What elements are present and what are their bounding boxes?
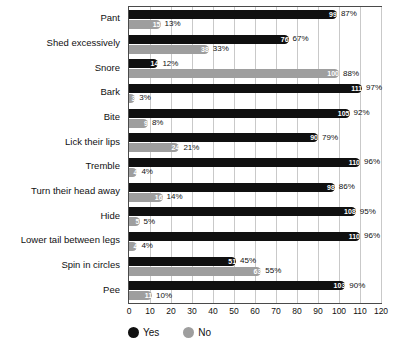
bar-percent-label: 21% bbox=[183, 143, 199, 153]
gridline-120 bbox=[381, 7, 382, 303]
bar-row-group: 9886%1614% bbox=[129, 183, 381, 202]
bar-value-label: 108 bbox=[334, 207, 359, 216]
bar-rect bbox=[129, 10, 337, 19]
bar-percent-label: 33% bbox=[213, 44, 229, 54]
bar-value-label: 3 bbox=[129, 94, 138, 103]
bar-percent-label: 4% bbox=[141, 167, 153, 177]
bar-percent-label: 86% bbox=[339, 182, 355, 192]
bar-value-label: 4 bbox=[129, 242, 140, 251]
bar-percent-label: 67% bbox=[293, 34, 309, 44]
bar-rect bbox=[129, 281, 345, 290]
bar-rect bbox=[129, 232, 360, 241]
bar-row-group: 9079%2421% bbox=[129, 133, 381, 152]
bar-value-label: 16 bbox=[141, 193, 166, 202]
bar-percent-label: 5% bbox=[144, 217, 156, 227]
bar-row-group: 7667%3833% bbox=[129, 35, 381, 54]
bar-rect bbox=[129, 207, 356, 216]
legend-label: No bbox=[198, 327, 211, 338]
bar-value-label: 38 bbox=[187, 45, 212, 54]
bar-value-label: 4 bbox=[129, 168, 140, 177]
category-label: Turn their head away bbox=[0, 186, 120, 196]
legend-swatch-yes-icon bbox=[128, 327, 139, 338]
bar-value-label: 63 bbox=[239, 267, 264, 276]
category-label: Bite bbox=[0, 112, 120, 122]
x-tick-label: 120 bbox=[369, 306, 393, 317]
plot-area: 9987%1513%7667%3833%1412%10088%11197%33%… bbox=[128, 6, 382, 304]
bar-percent-label: 79% bbox=[322, 133, 338, 143]
bar-row-group: 9987%1513% bbox=[129, 10, 381, 29]
bar-percent-label: 12% bbox=[162, 59, 178, 69]
bar-percent-label: 10% bbox=[156, 291, 172, 301]
bar-rect bbox=[129, 109, 350, 118]
category-label: Bark bbox=[0, 87, 120, 97]
bar-percent-label: 45% bbox=[240, 256, 256, 266]
category-label: Tremble bbox=[0, 161, 120, 171]
bar-value-label: 9 bbox=[129, 119, 151, 128]
bar-row-group: 1412%10088% bbox=[129, 59, 381, 78]
bar-row-group: 11096%44% bbox=[129, 232, 381, 251]
bar-percent-label: 95% bbox=[360, 207, 376, 217]
bar-value-label: 99 bbox=[315, 10, 340, 19]
category-label: Snore bbox=[0, 63, 120, 73]
category-label: Lick their lips bbox=[0, 137, 120, 147]
bar-rect bbox=[129, 133, 318, 142]
category-label: Spin in circles bbox=[0, 260, 120, 270]
category-label: Lower tail between legs bbox=[0, 235, 120, 245]
bar-percent-label: 4% bbox=[141, 241, 153, 251]
category-label: Pee bbox=[0, 285, 120, 295]
bar-percent-label: 90% bbox=[349, 281, 365, 291]
bar-rect bbox=[129, 183, 335, 192]
bar-rect bbox=[129, 69, 339, 78]
bar-percent-label: 87% bbox=[341, 9, 357, 19]
bar-value-label: 51 bbox=[214, 257, 239, 266]
bar-value-label: 110 bbox=[338, 158, 363, 167]
bar-percent-label: 8% bbox=[152, 118, 164, 128]
bar-percent-label: 97% bbox=[366, 83, 382, 93]
bar-percent-label: 96% bbox=[364, 231, 380, 241]
legend-label: Yes bbox=[143, 327, 159, 338]
x-axis-tick-labels: 0102030405060708090100110120 bbox=[128, 306, 382, 320]
bar-percent-label: 13% bbox=[165, 19, 181, 29]
bar-rect bbox=[129, 84, 362, 93]
bar-value-label: 5 bbox=[129, 217, 143, 226]
category-axis-labels: PantShed excessivelySnoreBarkBiteLick th… bbox=[0, 6, 126, 304]
bar-percent-label: 3% bbox=[139, 93, 151, 103]
bar-value-label: 110 bbox=[338, 232, 363, 241]
bar-percent-label: 96% bbox=[364, 157, 380, 167]
bar-value-label: 98 bbox=[313, 183, 338, 192]
bar-value-label: 111 bbox=[340, 84, 365, 93]
bar-percent-label: 55% bbox=[265, 266, 281, 276]
bar-percent-label: 14% bbox=[167, 192, 183, 202]
legend-swatch-no-icon bbox=[183, 327, 194, 338]
bar-value-label: 105 bbox=[328, 109, 353, 118]
bar-value-label: 100 bbox=[317, 69, 342, 78]
bar-rect bbox=[129, 158, 360, 167]
bar-value-label: 76 bbox=[267, 35, 292, 44]
bar-value-label: 24 bbox=[157, 143, 182, 152]
bar-value-label: 103 bbox=[323, 281, 348, 290]
bar-rect bbox=[129, 35, 289, 44]
legend-item-no[interactable]: No bbox=[183, 327, 211, 338]
bar-value-label: 14 bbox=[136, 59, 161, 68]
bar-row-group: 10390%1110% bbox=[129, 281, 381, 300]
bar-row-group: 5145%6355% bbox=[129, 257, 381, 276]
bar-row-group: 10895%55% bbox=[129, 207, 381, 226]
horizontal-bar-chart: PantShed excessivelySnoreBarkBiteLick th… bbox=[0, 0, 401, 348]
bar-row-group: 11197%33% bbox=[129, 84, 381, 103]
category-label: Hide bbox=[0, 211, 120, 221]
bar-value-label: 11 bbox=[130, 291, 155, 300]
category-label: Shed excessively bbox=[0, 38, 120, 48]
bar-value-label: 90 bbox=[296, 133, 321, 142]
legend-item-yes[interactable]: Yes bbox=[128, 327, 159, 338]
bar-value-label: 15 bbox=[139, 20, 164, 29]
category-label: Pant bbox=[0, 13, 120, 23]
bar-percent-label: 88% bbox=[343, 69, 359, 79]
bar-row-group: 11096%44% bbox=[129, 158, 381, 177]
chart-legend: YesNo bbox=[128, 324, 211, 340]
bar-percent-label: 92% bbox=[354, 108, 370, 118]
bar-row-group: 10592%98% bbox=[129, 109, 381, 128]
